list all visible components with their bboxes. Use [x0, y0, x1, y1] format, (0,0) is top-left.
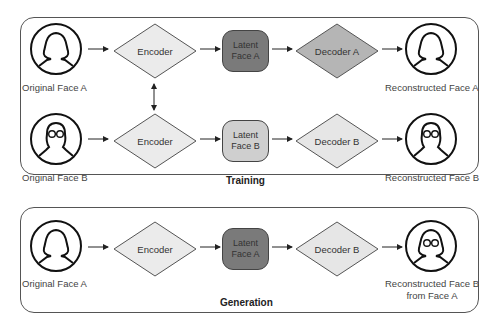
original-face-a-icon [29, 22, 83, 76]
decoder-a: Decoder A [295, 23, 379, 79]
arrow-icon [200, 135, 222, 143]
generation-decoder-label: Decoder B [295, 244, 379, 255]
arrow-icon [88, 45, 110, 53]
generation-encoder: Encoder [113, 221, 197, 277]
arrow-icon [200, 45, 222, 53]
generation-latent-face-a: LatentFace A [222, 228, 269, 270]
original-face-a-icon [29, 219, 83, 273]
encoder-a: Encoder [113, 23, 197, 79]
generation-input-label: Original Face A [22, 278, 87, 289]
generation-title: Generation [220, 297, 273, 308]
encoder-b: Encoder [113, 113, 197, 169]
decoder-b: Decoder B [295, 113, 379, 169]
encoder-b-label: Encoder [113, 136, 197, 147]
arrow-icon [272, 45, 294, 53]
arrow-icon [382, 45, 404, 53]
original-face-b-icon [29, 112, 83, 166]
swapped-face-icon [404, 219, 458, 273]
decoder-b-label: Decoder B [295, 136, 379, 147]
generation-output-label: Reconstructed Face B from Face A [385, 278, 479, 302]
arrow-icon [272, 135, 294, 143]
arrow-icon [88, 135, 110, 143]
arrow-icon [200, 243, 222, 251]
reconstructed-face-a-label: Reconstructed Face A [385, 82, 478, 93]
shared-encoder-arrow-icon [150, 82, 158, 112]
latent-face-b: LatentFace B [222, 120, 269, 162]
generation-decoder-b: Decoder B [295, 221, 379, 277]
arrow-icon [382, 135, 404, 143]
reconstructed-face-b-icon [404, 112, 458, 166]
original-face-a-label: Original Face A [22, 82, 87, 93]
latent-face-a: LatentFace A [222, 30, 269, 72]
decoder-a-label: Decoder A [295, 46, 379, 57]
generation-encoder-label: Encoder [113, 244, 197, 255]
original-face-b-label: Original Face B [22, 172, 87, 183]
arrow-icon [272, 243, 294, 251]
reconstructed-face-a-icon [404, 22, 458, 76]
arrow-icon [382, 243, 404, 251]
reconstructed-face-b-label: Reconstructed Face B [385, 172, 479, 183]
training-title: Training [226, 175, 265, 186]
encoder-a-label: Encoder [113, 46, 197, 57]
arrow-icon [88, 243, 110, 251]
